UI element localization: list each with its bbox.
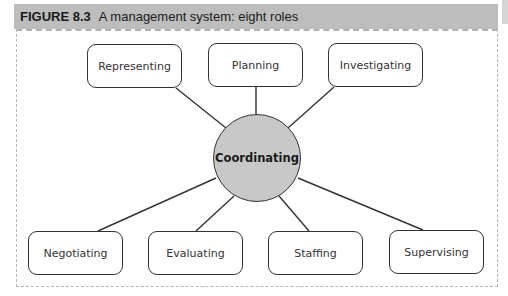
node-label: Investigating	[340, 59, 412, 72]
node-staffing: Staffing	[268, 231, 363, 275]
connector-supervising	[298, 178, 423, 230]
node-investigating: Investigating	[328, 43, 423, 87]
connector-evaluating	[196, 196, 234, 231]
node-label: Planning	[232, 59, 279, 72]
node-label: Negotiating	[43, 247, 107, 260]
node-label: Staffing	[294, 247, 337, 260]
node-supervising: Supervising	[389, 230, 484, 274]
node-coordinating: Coordinating	[213, 114, 301, 202]
connector-negotiating	[98, 178, 216, 231]
node-evaluating: Evaluating	[148, 231, 243, 275]
node-label: Evaluating	[166, 247, 224, 260]
node-label: Supervising	[404, 246, 469, 259]
node-negotiating: Negotiating	[28, 231, 123, 275]
connector-staffing	[279, 196, 309, 231]
node-label: Representing	[98, 60, 171, 73]
node-planning: Planning	[208, 43, 303, 87]
node-representing: Representing	[87, 44, 182, 88]
connector-investigating	[288, 87, 334, 128]
connector-representing	[176, 88, 226, 128]
center-label: Coordinating	[215, 151, 299, 165]
